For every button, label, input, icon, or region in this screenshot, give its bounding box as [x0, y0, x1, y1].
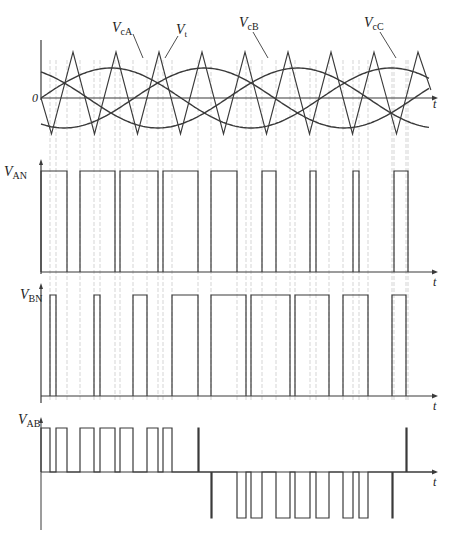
- vcB-label: VcB: [239, 15, 259, 32]
- vbn-label: VBN: [20, 287, 42, 304]
- vab-waveform: [41, 428, 436, 518]
- y-arrow-icon: [39, 159, 43, 165]
- vbn-panel: VBN t: [20, 283, 438, 413]
- reference-panel: 0 t VcA Vt VcB VcC: [32, 15, 438, 134]
- vab-label: VAB: [18, 412, 41, 429]
- y-arrow-icon: [39, 283, 43, 289]
- t-label-vbn: t: [433, 399, 437, 413]
- van-waveform: [41, 171, 408, 272]
- vcC-pointer: [380, 32, 396, 58]
- vbn-waveform: [50, 295, 406, 396]
- zero-label: 0: [32, 91, 38, 105]
- t-label-reference: t: [433, 97, 437, 111]
- vcC-label: VcC: [364, 15, 384, 32]
- spwm-diagram: 0 t VcA Vt VcB VcC VAN t VBN t VAB: [0, 0, 457, 537]
- vab-panel: VAB t: [18, 412, 438, 530]
- t-arrow-icon: [432, 270, 438, 275]
- t-label-vab: t: [433, 475, 437, 489]
- van-label: VAN: [4, 164, 27, 181]
- vcA-label: VcA: [112, 20, 133, 37]
- vcB-pointer: [253, 32, 268, 58]
- vt-pointer: [165, 36, 178, 58]
- t-arrow-icon: [432, 394, 438, 399]
- van-panel: VAN t: [4, 159, 438, 289]
- t-label-van: t: [433, 275, 437, 289]
- vcA-pointer: [133, 34, 143, 58]
